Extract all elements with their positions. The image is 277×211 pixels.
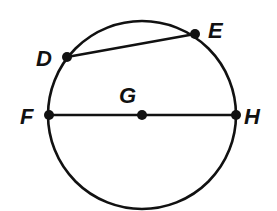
label-D: D	[36, 46, 52, 71]
circle-diagram: D E G F H	[0, 0, 277, 211]
label-E: E	[208, 18, 224, 43]
point-D	[62, 52, 72, 62]
chord-DE	[67, 34, 195, 57]
label-H: H	[244, 104, 261, 129]
point-G	[137, 110, 147, 120]
label-G: G	[119, 83, 136, 108]
point-F	[44, 110, 54, 120]
point-E	[190, 29, 200, 39]
point-H	[231, 110, 241, 120]
label-F: F	[20, 104, 34, 129]
